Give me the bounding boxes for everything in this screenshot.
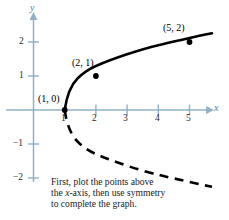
point-label-5-2: (5, 2) bbox=[163, 23, 185, 33]
x-tick-label-1: 1 bbox=[61, 114, 66, 124]
x-tick-label-5: 5 bbox=[186, 114, 191, 124]
caption-line-1-text: First, plot the points above bbox=[51, 176, 154, 187]
y-tick-label-neg2: −2 bbox=[13, 173, 23, 183]
x-tick-label-4: 4 bbox=[155, 114, 160, 124]
point-label-1-0: (1, 0) bbox=[38, 94, 60, 104]
point-marker-5-2 bbox=[187, 39, 193, 45]
caption-line-3: to complete the graph. bbox=[51, 198, 229, 209]
x-axis-label: x bbox=[214, 103, 218, 113]
caption-line-3-text: to complete the graph. bbox=[51, 198, 137, 209]
point-label-2-1: (2, 1) bbox=[72, 58, 94, 68]
figure-container: y x 1 2 3 4 5 1 2 −1 −2 (1, 0) (2, 1) (5… bbox=[0, 0, 229, 220]
y-axis-label: y bbox=[30, 3, 34, 13]
caption-line-2-suffix: -axis, then use symmetry bbox=[69, 187, 165, 198]
caption-line-2-prefix: the bbox=[51, 187, 65, 198]
caption-line-2: the x-axis, then use symmetry bbox=[51, 187, 229, 198]
y-tick-label-neg1: −1 bbox=[13, 139, 23, 149]
x-tick-label-3: 3 bbox=[123, 114, 128, 124]
y-tick-label-2: 2 bbox=[19, 37, 24, 47]
y-tick-label-1: 1 bbox=[19, 71, 24, 81]
caption-line-1: First, plot the points above bbox=[51, 176, 229, 187]
caption-block: First, plot the points above the x-axis,… bbox=[51, 176, 229, 210]
point-marker-2-1 bbox=[93, 73, 99, 79]
x-tick-label-2: 2 bbox=[92, 114, 97, 124]
